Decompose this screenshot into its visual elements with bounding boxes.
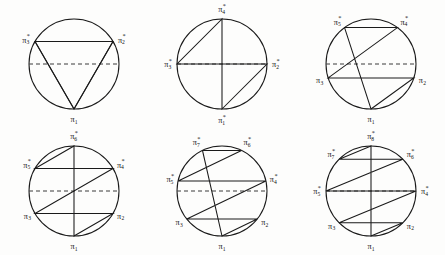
- vertex-label-pi-2: π2: [117, 212, 124, 222]
- vertex-label-pi-4: π*4: [421, 184, 429, 197]
- index-subscript: 4: [121, 165, 124, 171]
- triangle-diagram: π1π*2π*3: [4, 1, 144, 126]
- index-subscript: 5: [338, 21, 341, 27]
- inscribed-octagon: [326, 146, 416, 236]
- index-subscript: 3: [332, 226, 335, 232]
- vertex-label-pi-7: π*7: [327, 147, 335, 160]
- index-subscript: 1: [372, 119, 375, 125]
- vertex-label-pi-2: π*2: [272, 57, 280, 70]
- index-subscript: 2: [411, 226, 414, 232]
- index-subscript: 3: [169, 64, 172, 70]
- panel-grid: π1π*2π*3π*1π*2π*3π*4π1π2π3π*4π*5π1π2π3π*…: [0, 0, 445, 255]
- vertex-label-pi-4: π*4: [400, 14, 408, 27]
- heptagon-diagram: π1π2π3π*4π*5π*6π*7: [152, 129, 292, 254]
- index-subscript: 1: [75, 246, 78, 252]
- index-subscript: 6: [411, 154, 414, 160]
- index-subscript: 2: [122, 39, 125, 45]
- index-subscript: 3: [181, 222, 184, 228]
- index-subscript: 1: [223, 246, 226, 252]
- index-subscript: 2: [266, 222, 269, 228]
- index-subscript: 5: [171, 179, 174, 185]
- pentagon-diagram: π1π2π3π*4π*5: [301, 1, 441, 126]
- vertex-label-pi-3: π3: [24, 212, 31, 222]
- vertex-label-pi-1: π1: [219, 242, 226, 252]
- index-subscript: 1: [75, 119, 78, 125]
- index-subscript: 8: [371, 136, 374, 142]
- panel-hexagon: π1π2π3π*4π*5π*6: [0, 128, 148, 255]
- index-subscript: 3: [28, 216, 31, 222]
- index-subscript: 4: [223, 9, 226, 15]
- square-diagram: π*1π*2π*3π*4: [152, 1, 292, 126]
- index-subscript: 5: [317, 191, 320, 197]
- index-subscript: 3: [320, 80, 323, 86]
- inscribed-heptagon: [179, 151, 267, 237]
- vertex-label-pi-7: π*7: [193, 136, 201, 149]
- vertex-label-pi-4: π*4: [270, 172, 278, 185]
- index-subscript: 1: [223, 120, 226, 126]
- index-subscript: 2: [122, 216, 125, 222]
- vertex-label-pi-6: π*6: [70, 129, 78, 142]
- inscribed-triangle: [35, 41, 113, 109]
- vertex-label-pi-4: π*4: [219, 2, 227, 15]
- vertex-label-pi-5: π*5: [334, 14, 342, 27]
- vertex-label-pi-3: π*3: [22, 32, 30, 45]
- vertex-label-pi-3: π*3: [165, 57, 173, 70]
- inscribed-polygons-figure: π1π*2π*3π*1π*2π*3π*4π1π2π3π*4π*5π1π2π3π*…: [0, 0, 445, 255]
- panel-octagon: π1π2π3π*4π*5π*6π*7π*8: [297, 128, 445, 255]
- chord-apex-to-vertex-2: [74, 41, 113, 109]
- vertex-label-pi-2: π2: [262, 218, 269, 228]
- index-subscript: 7: [331, 154, 334, 160]
- chord-apex-to-vertex-3: [35, 41, 74, 109]
- vertex-label-pi-1: π1: [367, 242, 374, 252]
- vertex-label-pi-6: π*6: [407, 147, 415, 160]
- index-subscript: 3: [27, 39, 30, 45]
- index-subscript: 6: [74, 136, 77, 142]
- vertex-label-pi-5: π*5: [167, 172, 175, 185]
- vertex-label-pi-2: π2: [407, 222, 414, 232]
- index-subscript: 2: [277, 64, 280, 70]
- inscribed-pentagon: [328, 27, 414, 108]
- vertex-label-pi-1: π*1: [219, 113, 227, 126]
- panel-pentagon: π1π2π3π*4π*5: [297, 0, 445, 128]
- vertex-label-pi-3: π3: [328, 222, 335, 232]
- vertex-label-pi-1: π1: [367, 115, 374, 125]
- vertex-label-pi-1: π1: [71, 115, 78, 125]
- index-subscript: 1: [372, 246, 375, 252]
- vertex-label-pi-5: π*5: [23, 158, 31, 171]
- index-subscript: 5: [28, 165, 31, 171]
- vertex-label-pi-6: π*6: [244, 136, 252, 149]
- vertex-label-pi-3: π3: [316, 76, 323, 86]
- index-subscript: 6: [248, 143, 251, 149]
- vertex-label-pi-2: π*2: [118, 32, 126, 45]
- panel-heptagon: π1π2π3π*4π*5π*6π*7: [148, 128, 296, 255]
- panel-triangle: π1π*2π*3: [0, 0, 148, 128]
- panel-square: π*1π*2π*3π*4: [148, 0, 296, 128]
- index-subscript: 4: [425, 191, 428, 197]
- vertex-label-pi-8: π*8: [367, 129, 375, 142]
- hexagon-diagram: π1π2π3π*4π*5π*6: [4, 129, 144, 254]
- vertex-label-pi-2: π2: [419, 76, 426, 86]
- index-subscript: 2: [423, 80, 426, 86]
- octagon-diagram: π1π2π3π*4π*5π*6π*7π*8: [301, 129, 441, 254]
- index-subscript: 4: [404, 21, 407, 27]
- index-subscript: 4: [274, 179, 277, 185]
- vertex-label-pi-4: π*4: [117, 158, 125, 171]
- vertex-label-pi-3: π3: [176, 218, 183, 228]
- vertex-label-pi-5: π*5: [313, 184, 321, 197]
- vertex-label-pi-1: π1: [71, 242, 78, 252]
- index-subscript: 7: [197, 143, 200, 149]
